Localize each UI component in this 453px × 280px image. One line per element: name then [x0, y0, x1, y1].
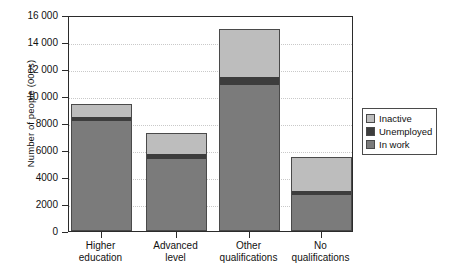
- x-axis-label-line: qualifications: [276, 252, 366, 264]
- legend-swatch-icon: [366, 114, 375, 123]
- x-axis-tick: [321, 232, 322, 238]
- legend: InactiveUnemployedIn work: [362, 108, 437, 155]
- y-axis-tick-label: 14 000: [27, 38, 58, 48]
- y-axis-tick-label: 8000: [36, 119, 58, 129]
- bar-segment-unemployed[interactable]: [219, 77, 280, 85]
- bar-segment-inactive[interactable]: [219, 29, 280, 78]
- bar-segment-inactive[interactable]: [146, 133, 207, 154]
- stacked-bar-chart: Number of people (000s) 0200040006000800…: [0, 0, 453, 280]
- y-axis-tick: [62, 232, 68, 233]
- footnote-text: [20, 272, 440, 280]
- y-axis-tick-label: 2000: [36, 200, 58, 210]
- bar-segment-inactive[interactable]: [291, 157, 352, 191]
- x-axis-tick: [101, 232, 102, 238]
- y-axis-tick-label: 16 000: [27, 11, 58, 21]
- y-axis-tick-label: 12 000: [27, 65, 58, 75]
- bar-segment-in-work[interactable]: [291, 195, 352, 231]
- bar-segment-in-work[interactable]: [71, 121, 132, 231]
- legend-label: Unemployed: [379, 127, 432, 137]
- bar-segment-in-work[interactable]: [146, 159, 207, 231]
- x-axis-tick: [249, 232, 250, 238]
- legend-swatch-icon: [366, 127, 375, 136]
- bar-segment-in-work[interactable]: [219, 85, 280, 231]
- bar-segment-unemployed[interactable]: [71, 117, 132, 121]
- x-axis-tick: [176, 232, 177, 238]
- y-axis-tick-label: 6000: [36, 146, 58, 156]
- y-axis-tick-label: 0: [52, 227, 58, 237]
- bar-segment-unemployed[interactable]: [291, 191, 352, 195]
- legend-label: Inactive: [379, 114, 412, 124]
- bar-1[interactable]: [71, 104, 132, 231]
- bar-4[interactable]: [291, 157, 352, 231]
- gridline: [69, 98, 352, 99]
- gridline: [69, 71, 352, 72]
- bar-segment-unemployed[interactable]: [146, 154, 207, 159]
- legend-swatch-icon: [366, 140, 375, 149]
- legend-label: In work: [379, 140, 410, 150]
- gridline: [69, 44, 352, 45]
- plot-area: [68, 16, 353, 232]
- bar-3[interactable]: [219, 29, 280, 232]
- legend-item-unemployed[interactable]: Unemployed: [366, 125, 432, 138]
- bar-2[interactable]: [146, 133, 207, 231]
- x-axis-label-4: Noqualifications: [276, 240, 366, 263]
- legend-item-inactive[interactable]: Inactive: [366, 112, 432, 125]
- y-axis-tick-label: 4000: [36, 173, 58, 183]
- x-axis-label-line: No: [276, 240, 366, 252]
- bar-segment-inactive[interactable]: [71, 104, 132, 117]
- legend-item-in-work[interactable]: In work: [366, 138, 432, 151]
- y-axis-tick-label: 10 000: [27, 92, 58, 102]
